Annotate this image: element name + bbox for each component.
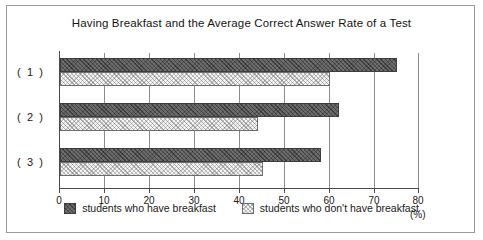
legend-swatch-dark-icon bbox=[64, 203, 76, 214]
bar-series2-cat2 bbox=[60, 117, 258, 131]
legend-label-have-breakfast: students who have breakfast bbox=[82, 202, 216, 214]
chart-figure: Having Breakfast and the Average Correct… bbox=[6, 5, 475, 233]
xtick-60 bbox=[329, 189, 330, 193]
gridline-80 bbox=[418, 53, 419, 189]
plot-area: 0 10 20 30 40 50 60 70 80 bbox=[59, 53, 419, 189]
xtick-70 bbox=[374, 189, 375, 193]
legend-item-have-breakfast: students who have breakfast bbox=[64, 202, 216, 214]
chart-title: Having Breakfast and the Average Correct… bbox=[7, 17, 476, 29]
bar-series1-cat3 bbox=[60, 148, 321, 162]
xtick-20 bbox=[149, 189, 150, 193]
xtick-80 bbox=[418, 189, 419, 193]
category-label-3: ( 3 ) bbox=[17, 156, 45, 168]
bar-series1-cat2 bbox=[60, 103, 339, 117]
xtick-10 bbox=[104, 189, 105, 193]
legend-item-no-breakfast: students who don't have breakfast bbox=[242, 202, 419, 214]
xtick-40 bbox=[239, 189, 240, 193]
category-label-2: ( 2 ) bbox=[17, 111, 45, 123]
category-label-1: ( 1 ) bbox=[17, 66, 45, 78]
legend-label-no-breakfast: students who don't have breakfast bbox=[260, 202, 419, 214]
bar-series1-cat1 bbox=[60, 58, 397, 72]
chart-legend: students who have breakfast students who… bbox=[7, 202, 476, 214]
xtick-0 bbox=[59, 189, 60, 193]
bar-series2-cat1 bbox=[60, 72, 330, 86]
bar-series2-cat3 bbox=[60, 162, 263, 176]
xtick-50 bbox=[284, 189, 285, 193]
xtick-30 bbox=[194, 189, 195, 193]
legend-swatch-light-icon bbox=[242, 203, 254, 214]
gridline-70 bbox=[374, 53, 375, 189]
